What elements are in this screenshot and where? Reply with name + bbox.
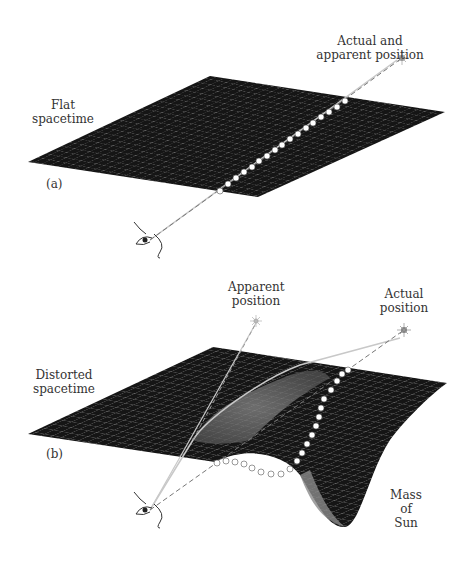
label-line: Apparent [228,280,284,294]
label-line: position [378,301,430,315]
panel-a-tag: (a) [46,177,63,191]
mass-of-sun-label: Mass of Sun [386,488,426,530]
label-line: Actual [378,287,430,301]
label-line: Distorted [28,368,100,382]
label-line: of [386,502,426,516]
label-line: apparent position [310,48,430,62]
panel-b-tag: (b) [46,447,63,461]
label-line: spacetime [28,382,100,396]
actual-star-icon [397,323,411,337]
eye-icon [134,222,162,258]
label-line: spacetime [28,112,98,126]
star-label-a: Actual and apparent position [310,34,430,62]
apparent-position-label: Apparent position [228,280,284,308]
apparent-star-icon [250,315,262,327]
actual-position-label: Actual position [378,287,430,315]
label-line: Sun [386,516,426,530]
label-line: Mass [386,488,426,502]
distorted-spacetime-label: Distorted spacetime [28,368,100,396]
flat-spacetime-label: Flat spacetime [28,98,98,126]
label-line: Actual and [310,34,430,48]
label-line: position [228,294,284,308]
label-line: Flat [28,98,98,112]
